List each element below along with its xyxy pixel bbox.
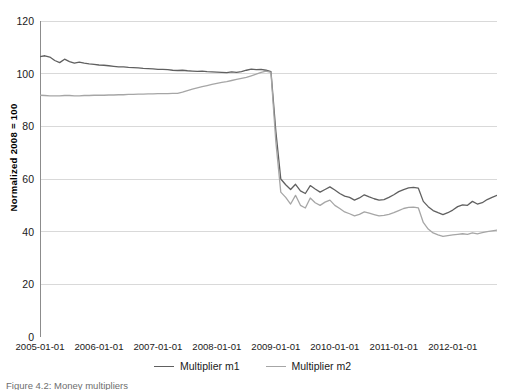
y-tick-100: 100 [0, 68, 34, 79]
y-tick-120: 120 [0, 16, 34, 27]
legend-line-swatch-m1 [154, 366, 174, 367]
chart-canvas [40, 21, 497, 337]
series-line-m1 [40, 56, 497, 215]
x-axis-tick-labels: 2005-01-012006-01-012007-01-012008-01-01… [0, 341, 505, 355]
legend-line-swatch-m2 [266, 366, 286, 367]
x-tick-2007: 2007-01-01 [133, 341, 182, 352]
legend-label-m2: Multiplier m2 [292, 360, 352, 372]
legend-label-m1: Multiplier m1 [180, 360, 240, 372]
x-tick-2008: 2008-01-01 [192, 341, 241, 352]
x-tick-2005: 2005-01-01 [15, 341, 64, 352]
figure-caption: Figure 4.2: Money multipliers [6, 379, 406, 390]
data-series [40, 56, 497, 237]
series-line-m2 [40, 71, 497, 236]
y-tick-20: 20 [0, 279, 34, 290]
y-tick-80: 80 [0, 121, 34, 132]
chart-legend: Multiplier m1 Multiplier m2 [0, 358, 505, 374]
x-tick-2012: 2012-01-01 [428, 341, 477, 352]
plot-area [40, 21, 497, 337]
y-tick-40: 40 [0, 226, 34, 237]
legend-item-m2: Multiplier m2 [266, 360, 352, 372]
x-tick-2011: 2011-01-01 [370, 341, 418, 352]
x-tick-2006: 2006-01-01 [74, 341, 123, 352]
y-tick-60: 60 [0, 174, 34, 185]
legend-item-m1: Multiplier m1 [154, 360, 240, 372]
x-tick-2009: 2009-01-01 [251, 341, 300, 352]
y-axis-tick-labels: 0 20 40 60 80 100 120 [0, 0, 38, 390]
gridlines [40, 21, 497, 337]
figure-money-multipliers: Normalized 2008 = 100 0 20 40 60 80 100 … [0, 0, 505, 390]
x-tick-2010: 2010-01-01 [310, 341, 359, 352]
